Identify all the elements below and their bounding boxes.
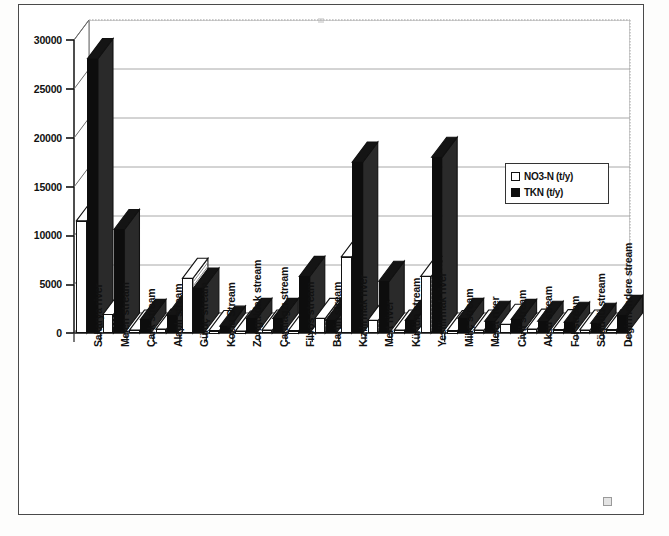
bar-front-face [156,329,167,333]
x-axis-tick-label: Melen stream [119,282,131,347]
bar-no3n-13 [421,276,432,333]
x-axis-tick-label: Degirmendere stream [622,243,634,347]
chart-legend: NO3-N (t/y) TKN (t/y) [505,163,609,204]
x-axis-tick-label: Aksu stream [542,286,554,347]
bar-front-face [527,329,538,333]
x-axis-tick-label: Fol stream [569,296,581,347]
bar-no3n-2 [129,330,140,333]
x-axis-tick-label: Civil stream [516,290,528,347]
bar-no3n-15 [474,330,485,333]
bar-no3n-14 [447,331,458,334]
scan-speck [603,497,612,506]
legend-label-no3n: NO3-N (t/y) [524,171,573,182]
x-axis-tick-label: Filyos stream [304,282,316,347]
bar-no3n-3 [156,329,167,333]
x-axis-tick-label: Çatalagzı stream [278,267,290,347]
bar-front-face [500,324,511,333]
x-axis-tick-label: Miliç stream [463,289,475,347]
bar-no3n-11 [368,320,379,333]
legend-label-tkn: TKN (t/y) [524,187,563,198]
bar-no3n-20 [606,330,617,333]
legend-entry-no3n: NO3-N (t/y) [511,168,603,184]
bar-front-face [315,318,326,333]
bar-no3n-9 [315,318,326,333]
bar-front-face [606,330,617,333]
x-axis-tick-label: Mert river [383,301,395,347]
x-axis-tick-label: Kızılırmak river [357,275,369,347]
bar-no3n-16 [500,324,511,333]
bar-front-face [474,330,485,333]
bar-front-face [209,331,220,334]
x-axis-tick-label: Kürtün stream [410,278,422,347]
bar-no3n-17 [527,329,538,333]
x-axis-tick-label: Söğütlü stream [595,273,607,347]
x-axis-tick-label: Zonguldak stream [251,260,263,347]
legend-entry-tkn: TKN (t/y) [511,184,603,200]
bar-front-face [262,330,273,333]
x-axis-tick-label: Gülüç stream [198,282,210,347]
bar-front-face [553,330,564,333]
bar-no3n-1 [103,314,114,333]
x-axis-tick-label: Kozlu Stream [225,282,237,347]
x-axis-tick-label: Yesilirmak river [436,273,448,347]
plot-area: 050001000015000200002500030000 Sakarya r… [0,0,669,536]
bar-no3n-5 [209,331,220,334]
bar-no3n-7 [262,330,273,333]
bar-front-face [580,330,591,333]
scan-speck [318,18,324,23]
legend-swatch-filled-square-icon [511,188,520,197]
bar-no3n-0 [76,221,87,333]
bar-no3n-12 [394,330,405,333]
x-axis-tick-label: Bartin stream [331,282,343,347]
bar-front-face [421,276,432,333]
bar-series-layer [0,0,669,536]
x-axis-tick-label: Sakarya river [92,284,104,347]
bar-front-face [368,320,379,333]
bar-front-face [76,221,87,333]
bar-front-face [394,330,405,333]
x-axis-tick-label: Çark stream [145,288,157,347]
bar-front-face [129,330,140,333]
bar-no3n-18 [553,330,564,333]
figure-root: 050001000015000200002500030000 Sakarya r… [0,0,669,536]
bar-no3n-19 [580,330,591,333]
x-axis-tick-label: Melet river [489,297,501,347]
legend-swatch-hollow-square-icon [511,172,520,181]
x-axis-tick-label: Alaplı stream [172,284,184,347]
bar-front-face [447,331,458,334]
bar-front-face [103,314,114,333]
